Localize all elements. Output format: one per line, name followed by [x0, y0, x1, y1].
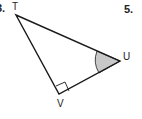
- vertex-label-t: T: [12, 1, 18, 12]
- problem-number-5: 5.: [124, 3, 133, 15]
- vertex-label-u: U: [123, 51, 130, 62]
- triangle-tuv: [16, 15, 120, 94]
- problem-number-3: 3.: [0, 2, 5, 14]
- angle-u-shade: [95, 51, 120, 73]
- triangle-diagram: 3. 5. T U V: [0, 0, 142, 119]
- vertex-label-v: V: [57, 98, 64, 109]
